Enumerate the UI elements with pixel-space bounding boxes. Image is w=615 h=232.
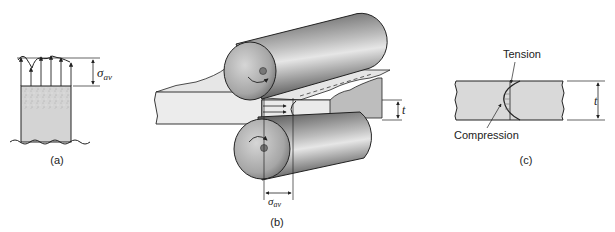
rolling-residual-stress-figure: σav (a) [0,0,615,232]
t-label-c: t [594,94,598,108]
bottom-roll [234,112,372,180]
t-label-b: t [402,103,406,117]
caption-a: (a) [50,154,63,166]
speckle-surface-layer [22,87,70,109]
panel-a: σav (a) [10,56,112,166]
sigma-av-label-b: σav [268,195,281,209]
compression-label: Compression [454,129,519,141]
tension-label: Tension [503,48,541,60]
tension-leader [511,62,515,83]
stress-arrows [21,56,71,86]
panel-c: Tension Compression t (c) [454,48,605,166]
roll-axle-top [260,68,267,75]
caption-b: (b) [270,216,283,228]
caption-c: (c) [520,154,533,166]
sigma-av-label-a: σav [97,65,112,82]
panel-b: σav t (b) [155,13,407,228]
